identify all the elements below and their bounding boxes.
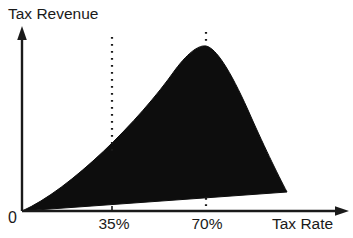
y-axis-title: Tax Revenue [8,6,98,22]
x-axis-arrow-icon [335,206,349,216]
laffer-curve-area [22,46,287,211]
x-axis-title: Tax Rate [272,216,333,232]
laffer-curve-plot [0,0,353,238]
origin-label: 0 [8,210,17,226]
chart-container: Tax Revenue 0 35% 70% Tax Rate [0,0,353,238]
x-tick-label-70: 70% [184,216,230,232]
y-axis-arrow-icon [17,26,27,40]
x-tick-label-35: 35% [91,216,137,232]
